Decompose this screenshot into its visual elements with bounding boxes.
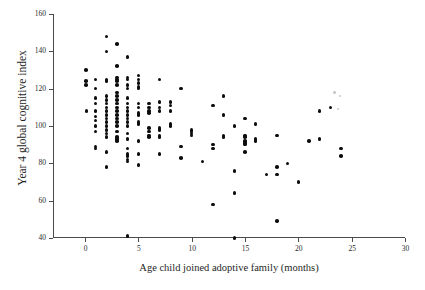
data-point xyxy=(137,163,141,167)
data-point xyxy=(126,147,130,151)
data-point xyxy=(126,87,130,91)
data-point xyxy=(201,160,205,164)
data-point xyxy=(318,109,322,113)
x-axis-label: Age child joined adoptive family (months… xyxy=(53,262,405,273)
data-point xyxy=(169,109,173,113)
data-point xyxy=(137,102,141,106)
y-tick-40: 40 xyxy=(49,238,53,239)
data-point xyxy=(339,147,343,151)
data-point xyxy=(211,104,215,108)
data-point xyxy=(105,79,109,83)
y-axis-line xyxy=(53,14,54,238)
data-point xyxy=(233,124,237,128)
data-point xyxy=(115,64,119,68)
data-point xyxy=(147,130,151,134)
data-point xyxy=(233,236,237,240)
x-tick-label-15: 15 xyxy=(242,244,250,253)
data-point xyxy=(275,134,279,138)
data-point xyxy=(275,173,279,177)
y-tick-100: 100 xyxy=(49,126,53,127)
x-tick-10: 10 xyxy=(192,238,193,242)
data-point xyxy=(126,102,130,106)
data-point xyxy=(137,87,141,91)
data-point xyxy=(179,156,183,160)
data-point xyxy=(147,135,151,139)
y-tick-label-80: 80 xyxy=(39,158,47,167)
data-point xyxy=(94,119,98,123)
y-tick-60: 60 xyxy=(49,201,53,202)
data-point xyxy=(105,150,109,154)
data-point xyxy=(126,96,130,100)
data-point xyxy=(147,111,151,115)
x-tick-0: 0 xyxy=(85,238,86,242)
data-point xyxy=(126,160,130,164)
x-tick-15: 15 xyxy=(245,238,246,242)
data-point xyxy=(158,100,162,104)
x-tick-30: 30 xyxy=(405,238,406,242)
y-tick-160: 160 xyxy=(49,14,53,15)
data-point xyxy=(85,109,89,113)
data-point xyxy=(115,139,119,143)
data-point xyxy=(94,87,98,91)
data-point xyxy=(211,203,215,207)
data-point xyxy=(115,130,119,134)
data-point xyxy=(169,124,173,128)
data-point xyxy=(265,173,269,177)
data-point xyxy=(297,180,301,184)
data-point xyxy=(105,102,109,106)
data-point xyxy=(243,150,247,154)
data-point xyxy=(158,135,162,139)
data-point xyxy=(137,152,141,156)
y-tick-label-120: 120 xyxy=(35,84,46,93)
data-point xyxy=(222,94,226,98)
data-point xyxy=(147,102,151,106)
data-point xyxy=(233,169,237,173)
y-tick-80: 80 xyxy=(49,163,53,164)
y-tick-label-140: 140 xyxy=(35,46,46,55)
data-point xyxy=(333,91,335,93)
y-tick-label-60: 60 xyxy=(39,196,47,205)
data-point xyxy=(126,132,130,136)
data-point xyxy=(94,102,98,106)
data-point xyxy=(158,152,162,156)
data-point xyxy=(329,106,333,110)
data-point xyxy=(158,109,162,113)
data-point xyxy=(254,122,258,126)
data-point xyxy=(286,162,290,166)
data-point xyxy=(137,74,141,78)
data-point xyxy=(337,108,339,110)
data-point xyxy=(94,124,98,128)
data-point xyxy=(179,87,183,91)
data-point xyxy=(115,124,119,128)
data-point xyxy=(137,139,141,143)
x-tick-20: 20 xyxy=(298,238,299,242)
data-point xyxy=(137,113,141,117)
y-tick-label-100: 100 xyxy=(35,121,46,130)
y-tick-140: 140 xyxy=(49,51,53,52)
data-point xyxy=(307,139,311,143)
data-point xyxy=(105,35,109,39)
data-point xyxy=(105,128,109,132)
data-point xyxy=(105,50,109,54)
data-point xyxy=(179,145,183,149)
x-tick-5: 5 xyxy=(138,238,139,242)
data-point xyxy=(158,128,162,132)
data-point xyxy=(126,124,130,128)
data-point xyxy=(105,135,109,139)
x-tick-label-5: 5 xyxy=(137,244,141,253)
x-tick-label-20: 20 xyxy=(295,244,303,253)
data-point xyxy=(94,147,98,151)
data-point xyxy=(126,55,130,59)
data-point xyxy=(169,100,173,104)
data-point xyxy=(94,115,98,119)
x-tick-25: 25 xyxy=(352,238,353,242)
data-point xyxy=(243,117,247,121)
data-point xyxy=(94,78,98,82)
data-point xyxy=(254,139,258,143)
data-point xyxy=(126,137,130,141)
data-point xyxy=(211,143,215,147)
data-point xyxy=(243,143,247,147)
x-tick-label-0: 0 xyxy=(84,244,88,253)
y-tick-120: 120 xyxy=(49,89,53,90)
data-point xyxy=(84,83,88,87)
